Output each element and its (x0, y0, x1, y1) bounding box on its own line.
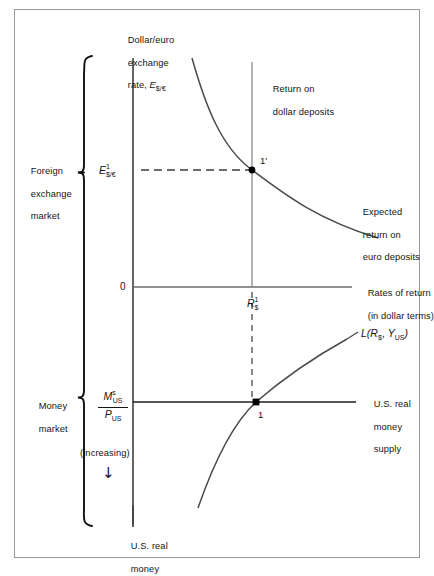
brace-label-money-market: Money market (28, 390, 68, 446)
m-symbol: M (104, 390, 113, 402)
interest-rate-tick-label: R1$ (247, 296, 258, 311)
dollar-return-line2: dollar deposits (273, 107, 334, 117)
real-money-supply-denominator: PUS (98, 409, 128, 424)
money-demand-label-leader (347, 332, 358, 339)
money-holdings-line1: U.S. real (131, 541, 168, 551)
dollar-return-line1: Return on (273, 84, 315, 94)
l-sub-us: US (395, 334, 405, 341)
fraction-bar (98, 407, 128, 408)
money-brace-line1: Money (39, 401, 67, 411)
money-demand-curve (198, 339, 347, 508)
fx-brace-line3: market (31, 211, 60, 221)
l-suffix: ) (404, 327, 408, 339)
vertical-axis-title-line2: exchange (128, 58, 169, 68)
r-subscript: $ (255, 304, 259, 311)
money-supply-line2: money (374, 422, 402, 432)
money-demand-curve-label: L(R$, YUS) (361, 327, 408, 341)
l-symbol-y: Y (388, 327, 395, 339)
increasing-note: (increasing) (80, 448, 130, 459)
real-money-supply-label: U.S. real money supply (363, 388, 411, 466)
l-symbol-r: R (370, 327, 378, 339)
equilibrium-point-fx-label: 1' (260, 155, 267, 166)
rates-of-return-line1: Rates of return (368, 288, 431, 298)
equilibrium-point-fx (249, 167, 256, 174)
fx-brace-line2: exchange (31, 189, 72, 199)
vertical-axis-title-line1: Dollar/euro (128, 35, 175, 45)
vertical-axis-title-line3: rate, E$/€ (128, 80, 166, 90)
money-brace-line2: market (39, 424, 68, 434)
vertical-axis-title: Dollar/euro exchange rate, E$/€ (117, 24, 174, 105)
exchange-rate-subscript: $/€ (156, 85, 166, 92)
euro-return-line3: euro deposits (363, 252, 420, 262)
l-prefix: L( (361, 327, 370, 339)
m-subscript: US (113, 397, 123, 404)
return-on-dollar-deposits-label: Return on dollar deposits (262, 73, 334, 129)
money-supply-line1: U.S. real (374, 399, 411, 409)
real-money-supply-numerator: MsUS (98, 387, 128, 406)
money-holdings-line2: money (131, 564, 159, 574)
e-superscript: 1 (106, 163, 110, 170)
euro-return-line1: Expected (363, 207, 403, 217)
money-supply-line3: supply (374, 444, 401, 454)
exchange-rate-tick-label: E1$/€ (99, 163, 116, 178)
equilibrium-point-money (253, 399, 260, 406)
money-holdings-axis-label: U.S. real money holdings (120, 530, 168, 576)
e-symbol: E (99, 164, 106, 176)
r-superscript: 1 (255, 296, 259, 303)
euro-return-line2: return on (363, 230, 401, 240)
increasing-arrow-icon: ↓ (102, 466, 115, 481)
brace-label-foreign-exchange-market: Foreign exchange market (20, 155, 72, 233)
p-subscript: US (112, 415, 122, 422)
m-superscript: s (112, 389, 116, 396)
equilibrium-point-money-label: 1 (258, 409, 263, 420)
p-symbol: P (105, 408, 112, 420)
fx-brace-line1: Foreign (31, 166, 63, 176)
origin-label: 0 (120, 281, 126, 292)
e-subscript: $/€ (106, 171, 116, 178)
expected-return-euro-deposits-label: Expected return on euro deposits (352, 196, 420, 274)
r-symbol: R (247, 297, 255, 309)
figure-canvas: Dollar/euro exchange rate, E$/€ Return o… (0, 0, 434, 576)
rates-of-return-line2: (in dollar terms) (368, 311, 434, 321)
rates-of-return-axis-label: Rates of return (in dollar terms) (357, 277, 434, 333)
real-money-supply-tick-label: MsUS PUS (98, 387, 128, 424)
